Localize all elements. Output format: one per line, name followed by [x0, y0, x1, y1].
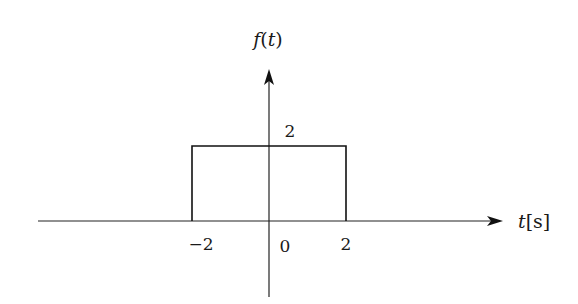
rect-pulse-diagram: f(t) 2 −2 0 2 t[s]	[0, 0, 578, 304]
y-axis-label: f(t)	[251, 28, 283, 50]
x-axis-label: t[s]	[518, 210, 550, 232]
tick-label-zero: 0	[280, 236, 291, 256]
tick-label-neg-two: −2	[188, 234, 213, 254]
height-label: 2	[285, 121, 296, 141]
tick-label-pos-two: 2	[341, 234, 352, 254]
